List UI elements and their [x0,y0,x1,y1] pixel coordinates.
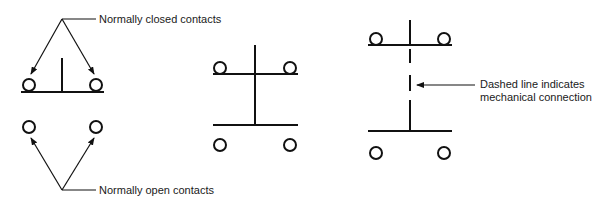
label-dashed-line-2: mechanical connection [480,91,592,104]
normally-open-contacts [23,121,102,133]
mechanically-linked-contacts [368,20,452,159]
no-leader-arrows [31,138,96,190]
nc-leader-arrows [31,19,96,74]
double-pole-contacts [213,45,298,151]
label-dashed-line-1: Dashed line indicates [480,78,585,91]
label-normally-open: Normally open contacts [99,184,214,197]
normally-closed-contacts [21,58,104,92]
label-normally-closed: Normally closed contacts [99,13,221,26]
